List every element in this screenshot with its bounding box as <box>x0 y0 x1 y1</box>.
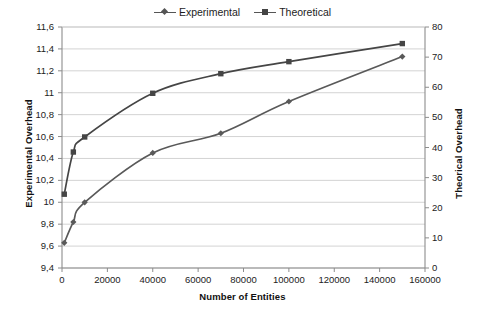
y-tick-label-left: 9,8 <box>14 218 54 229</box>
y-tick-label-right: 40 <box>432 142 472 153</box>
chart-figure: Experimental Theoretical Experimental Ov… <box>0 0 485 314</box>
data-point-marker-square <box>400 41 405 46</box>
y-tick-label-right: 30 <box>432 172 472 183</box>
y-tick-label-left: 11,2 <box>14 65 54 76</box>
y-tick-label-left: 10,8 <box>14 109 54 120</box>
data-point-marker-square <box>62 191 67 196</box>
y-tick-label-left: 11,4 <box>14 43 54 54</box>
y-tick-label-right: 50 <box>432 111 472 122</box>
y-tick-label-left: 10,6 <box>14 131 54 142</box>
plot-area <box>0 0 485 314</box>
y-tick-label-right: 70 <box>432 51 472 62</box>
y-tick-label-right: 0 <box>432 262 472 273</box>
y-tick-label-left: 11 <box>14 87 54 98</box>
y-tick-label-left: 10,2 <box>14 174 54 185</box>
y-tick-label-left: 10 <box>14 196 54 207</box>
data-point-marker-square <box>218 71 223 76</box>
y-tick-label-right: 60 <box>432 81 472 92</box>
y-tick-label-left: 10,4 <box>14 152 54 163</box>
data-point-marker-square <box>82 134 87 139</box>
x-tick-label: 160000 <box>395 274 455 285</box>
y-tick-label-left: 11,6 <box>14 21 54 32</box>
y-tick-label-right: 20 <box>432 202 472 213</box>
data-point-marker-square <box>150 91 155 96</box>
data-point-marker-square <box>286 59 291 64</box>
plot-background <box>62 27 425 268</box>
y-tick-label-left: 9,4 <box>14 262 54 273</box>
y-tick-label-left: 9,6 <box>14 240 54 251</box>
y-tick-label-right: 10 <box>432 232 472 243</box>
data-point-marker-square <box>71 149 76 154</box>
y-tick-label-right: 80 <box>432 21 472 32</box>
